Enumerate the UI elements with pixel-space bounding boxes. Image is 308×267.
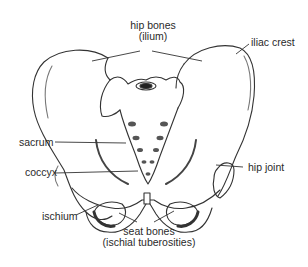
label-hip-joint: hip joint (248, 162, 284, 173)
leader-lines (55, 44, 249, 222)
label-hip-bones: hip bones (ilium) (120, 20, 186, 42)
label-seat-bones-line2: (ischial tuberosities) (96, 237, 202, 248)
right-ilium (184, 46, 254, 196)
left-ilium (32, 50, 112, 219)
pubic-symphysis (144, 193, 150, 204)
label-hip-bones-line2: (ilium) (120, 31, 186, 42)
label-sacrum: sacrum (19, 137, 53, 148)
pelvis-diagram: hip bones (ilium) iliac crest sacrum coc… (0, 0, 308, 267)
label-ischium: ischium (42, 211, 78, 222)
label-iliac-crest: iliac crest (251, 37, 295, 48)
label-coccyx: coccyx (25, 167, 57, 178)
label-seat-bones: seat bones (ischial tuberosities) (96, 226, 202, 248)
